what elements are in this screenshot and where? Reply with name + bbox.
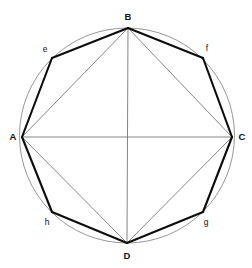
octagon-edge-dh <box>52 212 127 243</box>
vertex-label-h: h <box>45 218 50 227</box>
diagram-canvas: ABCDefgh <box>0 0 252 268</box>
diameter-bd <box>127 28 128 243</box>
geometry-figure <box>0 0 252 268</box>
vertex-label-C: C <box>239 132 246 142</box>
axis-layer <box>22 28 232 243</box>
octagon-edge-gd <box>127 212 203 243</box>
vertex-label-g: g <box>204 218 209 227</box>
octagon-edge-eb <box>52 28 128 58</box>
vertex-label-B: B <box>125 12 132 22</box>
octagon-edge-bf <box>128 28 203 58</box>
square-edge-da <box>22 137 127 243</box>
vertex-label-f: f <box>206 44 208 53</box>
vertex-label-e: e <box>43 45 48 54</box>
square-edge-ab <box>22 28 128 137</box>
vertex-label-D: D <box>124 251 131 261</box>
square-edge-bc <box>128 28 232 137</box>
square-edge-cd <box>127 137 232 243</box>
vertex-label-A: A <box>10 132 17 142</box>
